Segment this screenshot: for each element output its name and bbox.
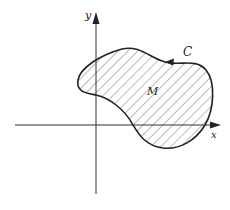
region-label: M	[147, 86, 158, 97]
y-axis-label: y	[85, 10, 91, 21]
curve-label: C	[183, 46, 192, 58]
x-axis-arrow-icon	[210, 122, 221, 129]
y-axis	[93, 12, 100, 194]
y-axis-arrow-icon	[93, 12, 100, 24]
diagram-svg	[0, 0, 230, 210]
region-m-hatching	[60, 40, 230, 160]
diagram-canvas: y x C M	[0, 0, 230, 210]
x-axis-label: x	[211, 130, 217, 140]
